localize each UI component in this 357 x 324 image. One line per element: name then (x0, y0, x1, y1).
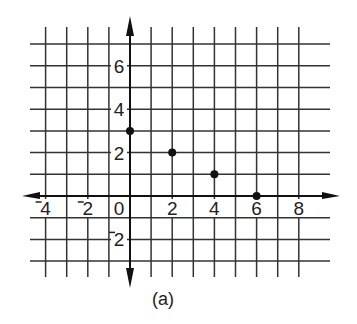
data-point (253, 192, 261, 200)
arrow-up-icon (126, 16, 134, 36)
coordinate-plane: 42024686422 (a) (0, 0, 357, 324)
grid-lines (30, 27, 330, 277)
x-tick-label: 8 (294, 198, 305, 219)
arrow-left-icon (22, 192, 40, 199)
x-tick-label: 0 (114, 198, 125, 219)
y-tick-label: 4 (114, 99, 125, 120)
x-tick-label: 2 (83, 198, 94, 219)
y-tick-label: 2 (114, 229, 125, 250)
figure-caption: (a) (152, 289, 174, 309)
x-tick-label: 4 (209, 198, 220, 219)
x-tick-label: 6 (251, 198, 262, 219)
data-point (168, 149, 176, 157)
y-tick-label: 6 (114, 56, 125, 77)
arrow-down-icon (126, 268, 134, 288)
arrow-right-icon (322, 192, 340, 199)
data-point (210, 170, 218, 178)
data-point (126, 127, 134, 135)
x-tick-label: 4 (40, 198, 51, 219)
y-tick-label: 2 (114, 143, 125, 164)
x-tick-label: 2 (167, 198, 178, 219)
